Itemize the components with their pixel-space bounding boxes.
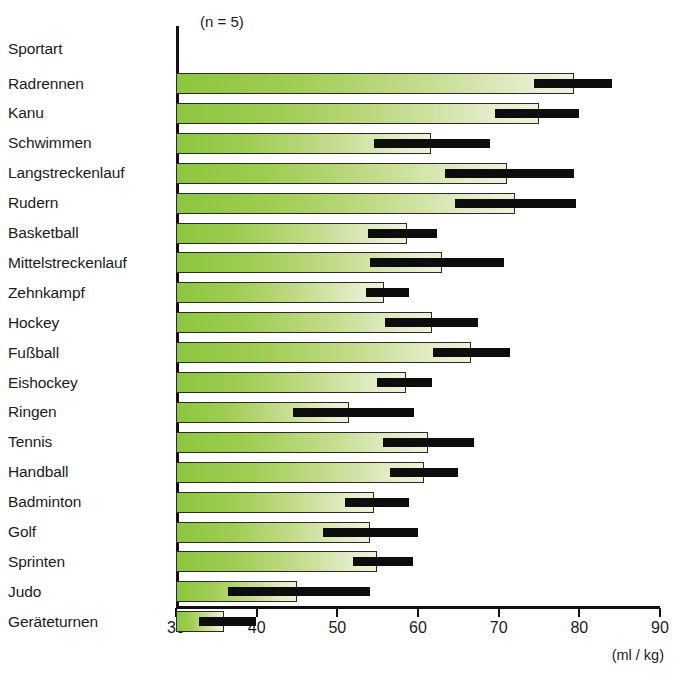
error-bar-basketball <box>368 229 437 238</box>
error-bar-geräteturnen <box>199 617 255 626</box>
error-bar-rudern <box>455 199 576 208</box>
error-bar-langstreckenlauf <box>445 169 573 178</box>
bar-row <box>176 372 660 393</box>
column-header-sportart: Sportart <box>8 41 164 57</box>
error-bar-radrennen <box>534 79 612 88</box>
error-bar-kanu <box>495 109 580 118</box>
category-label-hockey: Hockey <box>8 315 164 331</box>
bar-row <box>176 223 660 244</box>
bar-row <box>176 342 660 363</box>
category-label-golf: Golf <box>8 524 164 540</box>
error-bar-eishockey <box>377 378 432 387</box>
bar-row <box>176 611 660 632</box>
bar-mean-sprinten <box>176 551 377 572</box>
vo2max-sport-chart: Sportart RadrennenKanuSchwimmenLangstrec… <box>0 0 680 688</box>
error-bar-zehnkampf <box>366 288 410 297</box>
category-label-sprinten: Sprinten <box>8 554 164 570</box>
bar-row <box>176 522 660 543</box>
bar-mean-fußball <box>176 342 471 363</box>
bar-mean-kanu <box>176 103 539 124</box>
bar-row <box>176 163 660 184</box>
error-bar-badminton <box>345 498 409 507</box>
plot-area: (n = 5) 30405060708090 (ml / kg) <box>176 26 668 608</box>
bar-row <box>176 73 660 94</box>
category-label-fußball: Fußball <box>8 345 164 361</box>
error-bar-hockey <box>385 318 478 327</box>
category-label-mittelstreckenlauf: Mittelstreckenlauf <box>8 255 164 271</box>
bar-row <box>176 462 660 483</box>
bar-row <box>176 133 660 154</box>
error-bar-mittelstreckenlauf <box>370 258 504 267</box>
category-label-handball: Handball <box>8 464 164 480</box>
bar-row <box>176 252 660 273</box>
bar-row <box>176 432 660 453</box>
category-label-tennis: Tennis <box>8 434 164 450</box>
error-bar-fußball <box>433 348 510 357</box>
bar-mean-radrennen <box>176 73 574 94</box>
category-label-eishockey: Eishockey <box>8 375 164 391</box>
sample-size-annotation: (n = 5) <box>200 14 244 29</box>
category-label-ringen: Ringen <box>8 404 164 420</box>
category-label-radrennen: Radrennen <box>8 76 164 92</box>
error-bar-sprinten <box>353 557 414 566</box>
bar-row <box>176 282 660 303</box>
bar-mean-eishockey <box>176 372 406 393</box>
bar-row <box>176 103 660 124</box>
bar-mean-zehnkampf <box>176 282 384 303</box>
bar-row <box>176 193 660 214</box>
category-label-column: Sportart RadrennenKanuSchwimmenLangstrec… <box>0 0 176 688</box>
error-bar-judo <box>228 587 369 596</box>
category-label-badminton: Badminton <box>8 494 164 510</box>
category-label-langstreckenlauf: Langstreckenlauf <box>8 165 164 181</box>
category-label-schwimmen: Schwimmen <box>8 135 164 151</box>
bar-mean-handball <box>176 462 424 483</box>
category-label-geräteturnen: Geräteturnen <box>8 614 164 630</box>
bar-row <box>176 492 660 513</box>
error-bar-tennis <box>383 438 475 447</box>
error-bar-golf <box>323 528 418 537</box>
error-bar-schwimmen <box>374 139 490 148</box>
category-label-kanu: Kanu <box>8 105 164 121</box>
category-label-judo: Judo <box>8 584 164 600</box>
bar-row <box>176 581 660 602</box>
category-label-zehnkampf: Zehnkampf <box>8 285 164 301</box>
error-bar-handball <box>390 468 459 477</box>
category-label-rudern: Rudern <box>8 195 164 211</box>
bar-row <box>176 551 660 572</box>
bar-row <box>176 402 660 423</box>
category-label-basketball: Basketball <box>8 225 164 241</box>
error-bar-ringen <box>293 408 414 417</box>
bar-row <box>176 312 660 333</box>
x-axis-unit-label: (ml / kg) <box>612 648 664 663</box>
